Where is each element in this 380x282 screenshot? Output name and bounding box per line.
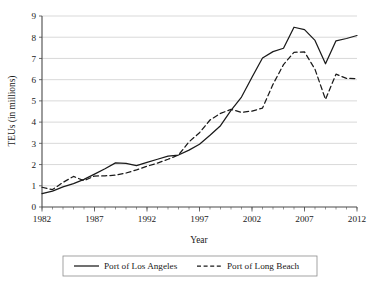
x-tick-label: 2002 [243, 214, 262, 224]
y-tick-label: 6 [31, 75, 36, 85]
x-tick-label: 1982 [33, 214, 52, 224]
legend-label-port-of-los-angeles: Port of Los Angeles [104, 261, 178, 271]
x-tick-label: 1992 [138, 214, 157, 224]
series-line-port-of-long-beach [42, 52, 357, 190]
y-tick-label: 7 [31, 54, 36, 64]
gridlines-group [42, 16, 357, 186]
y-tick-label: 0 [31, 202, 36, 212]
x-tick-label: 1987 [85, 214, 104, 224]
y-axis-tick-labels: 0123456789 [31, 11, 36, 212]
y-tick-label: 9 [31, 11, 36, 21]
x-tick-label: 2012 [348, 214, 367, 224]
line-chart: 0123456789 1982198719921997200220072012 … [0, 0, 380, 282]
y-tick-label: 2 [31, 160, 36, 170]
x-axis-title: Year [190, 235, 208, 245]
y-tick-label: 4 [31, 117, 36, 127]
series-line-port-of-los-angeles [42, 27, 357, 193]
y-tick-label: 3 [31, 139, 36, 149]
chart-canvas: 0123456789 1982198719921997200220072012 … [0, 0, 380, 282]
x-tick-label: 1997 [190, 214, 209, 224]
chart-legend: Port of Los Angeles Port of Long Beach [63, 256, 317, 276]
y-axis-title: TEUs (in millions) [7, 76, 18, 147]
y-tick-label: 1 [31, 181, 36, 191]
y-tick-label: 5 [31, 96, 36, 106]
y-tick-label: 8 [31, 33, 36, 43]
x-axis-ticks [42, 207, 357, 212]
x-tick-label: 2007 [295, 214, 314, 224]
x-axis-tick-labels: 1982198719921997200220072012 [33, 214, 367, 224]
legend-label-port-of-long-beach: Port of Long Beach [227, 261, 300, 271]
